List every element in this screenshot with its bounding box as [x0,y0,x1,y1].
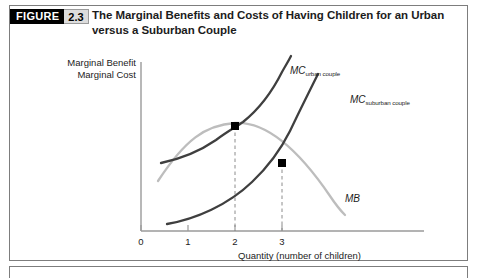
x-axis-label: Quantity (number of children) [238,250,361,261]
curve-label-mc-urban-sub: urban couple [306,70,341,77]
curve-label-mc-suburban: MCsuburban couple [350,89,410,107]
curve-label-mc-urban-main: MC [290,65,306,76]
x-tick-label-2: 2 [229,236,241,247]
x-tick-label-0: 0 [135,236,147,247]
page-bottom-strip [9,266,468,278]
curve-label-mc-suburban-sub: suburban couple [366,99,410,106]
x-tick-label-1: 1 [182,236,194,247]
y-axis-label-line2: Marginal Cost [52,69,136,81]
y-axis-label-line1: Marginal Benefit [52,57,136,69]
figure-caption-text: The Marginal Benefits and Costs of Havin… [92,8,454,38]
curve-label-mc-suburban-main: MC [350,94,366,105]
figure-badge-number: 2.3 [64,9,88,24]
curve-label-mc-urban: MCurban couple [290,60,340,78]
figure-badge: FIGURE 2.3 [10,9,89,24]
figure-screenshot: FIGURE 2.3 The Marginal Benefits and Cos… [0,0,478,278]
curve-label-mb: MB [345,193,360,204]
figure-badge-label: FIGURE [10,9,64,24]
y-axis-label: Marginal Benefit Marginal Cost [52,57,136,81]
x-tick-label-3: 3 [276,236,288,247]
figure-frame [9,5,468,261]
